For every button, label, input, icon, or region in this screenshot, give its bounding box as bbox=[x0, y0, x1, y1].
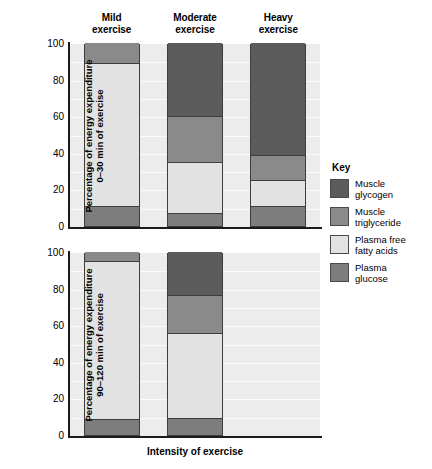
y-tick-label-bottom-40: 40 bbox=[36, 358, 64, 368]
bar-segment-ffa bbox=[168, 162, 222, 213]
y-tick-label-top-60: 60 bbox=[36, 112, 64, 122]
plot-area-bottom bbox=[70, 253, 320, 436]
legend-label-plasma-free-fatty-acids-line2: fatty acids bbox=[355, 246, 406, 257]
legend-label-plasma-glucose: Plasma glucose bbox=[355, 263, 388, 284]
column-header-heavy-line2: exercise bbox=[237, 24, 320, 36]
bar-segment-ffa bbox=[251, 180, 305, 206]
bar-segment-glycogen bbox=[168, 252, 222, 295]
y-tick-label-top-100: 100 bbox=[36, 39, 64, 49]
legend-label-muscle-glycogen: Muscle glycogen bbox=[355, 179, 393, 200]
legend-item-plasma-glucose[interactable]: Plasma glucose bbox=[330, 263, 430, 284]
bar-segment-ffa bbox=[168, 333, 222, 418]
legend-label-muscle-glycogen-line2: glycogen bbox=[355, 190, 393, 201]
y-tick-label-bottom-60: 60 bbox=[36, 321, 64, 331]
y-axis-title-bottom: Percentage of energy expenditure 90–120 … bbox=[83, 180, 105, 469]
legend-item-plasma-free-fatty-acids[interactable]: Plasma free fatty acids bbox=[330, 235, 430, 256]
x-axis-title: Intensity of exercise bbox=[70, 446, 320, 457]
bar-segment-glucose bbox=[168, 213, 222, 226]
bar-slot-top-1 bbox=[153, 44, 236, 227]
y-axis-line-top bbox=[68, 42, 70, 229]
y-axis-title-bottom-line1: Percentage of energy expenditure bbox=[83, 180, 94, 469]
legend-swatch-plasma-free-fatty-acids bbox=[330, 235, 349, 254]
bar-segment-triglyceride bbox=[168, 116, 222, 162]
legend-label-plasma-free-fatty-acids-line1: Plasma free bbox=[355, 235, 406, 246]
bar-slot-bottom-2 bbox=[237, 253, 320, 436]
y-tick-label-top-80: 80 bbox=[36, 76, 64, 86]
y-tick-label-bottom-20: 20 bbox=[36, 394, 64, 404]
stacked-bar[interactable] bbox=[250, 44, 306, 227]
legend-swatch-muscle-triglyceride bbox=[330, 207, 349, 226]
x-axis-line-top bbox=[68, 227, 322, 229]
legend-label-muscle-triglyceride: Muscle triglyceride bbox=[355, 207, 401, 228]
legend: Key Muscle glycogen Muscle triglyceride … bbox=[330, 162, 430, 291]
bar-slot-bottom-1 bbox=[153, 253, 236, 436]
column-header-moderate: Moderate exercise bbox=[153, 12, 236, 42]
column-header-heavy: Heavy exercise bbox=[237, 12, 320, 42]
bar-segment-glucose bbox=[168, 418, 222, 435]
bar-slot-top-2 bbox=[237, 44, 320, 227]
y-axis-line-bottom bbox=[68, 251, 70, 438]
bar-segment-triglyceride bbox=[168, 295, 222, 333]
plot-area-top bbox=[70, 44, 320, 227]
legend-label-muscle-glycogen-line1: Muscle bbox=[355, 179, 393, 190]
y-tick-label-bottom-100: 100 bbox=[36, 248, 64, 258]
legend-item-muscle-glycogen[interactable]: Muscle glycogen bbox=[330, 179, 430, 200]
stacked-bar[interactable] bbox=[167, 253, 223, 436]
column-header-heavy-line1: Heavy bbox=[237, 12, 320, 24]
y-tick-label-bottom-0: 0 bbox=[36, 431, 64, 441]
legend-label-muscle-triglyceride-line1: Muscle bbox=[355, 207, 401, 218]
y-tick-label-top-40: 40 bbox=[36, 149, 64, 159]
chart-figure: Mild exercise Moderate exercise Heavy ex… bbox=[0, 0, 432, 469]
bar-segment-triglyceride bbox=[251, 155, 305, 181]
legend-item-muscle-triglyceride[interactable]: Muscle triglyceride bbox=[330, 207, 430, 228]
legend-swatch-plasma-glucose bbox=[330, 263, 349, 282]
legend-label-plasma-glucose-line2: glucose bbox=[355, 274, 388, 285]
column-header-moderate-line2: exercise bbox=[153, 24, 236, 36]
y-tick-label-bottom-80: 80 bbox=[36, 285, 64, 295]
y-tick-label-top-0: 0 bbox=[36, 222, 64, 232]
x-axis-line-bottom bbox=[68, 436, 322, 438]
bar-segment-glycogen bbox=[168, 43, 222, 116]
column-header-moderate-line1: Moderate bbox=[153, 12, 236, 24]
legend-label-plasma-glucose-line1: Plasma bbox=[355, 263, 388, 274]
legend-swatch-muscle-glycogen bbox=[330, 179, 349, 198]
legend-label-plasma-free-fatty-acids: Plasma free fatty acids bbox=[355, 235, 406, 256]
y-tick-label-top-20: 20 bbox=[36, 185, 64, 195]
y-axis-title-bottom-line2: 90–120 min of exercise bbox=[94, 180, 105, 469]
legend-title: Key bbox=[332, 162, 430, 173]
column-headers: Mild exercise Moderate exercise Heavy ex… bbox=[70, 12, 320, 42]
bar-segment-glycogen bbox=[251, 43, 305, 155]
bar-segment-glucose bbox=[251, 206, 305, 226]
legend-label-muscle-triglyceride-line2: triglyceride bbox=[355, 218, 401, 229]
stacked-bar[interactable] bbox=[167, 44, 223, 227]
